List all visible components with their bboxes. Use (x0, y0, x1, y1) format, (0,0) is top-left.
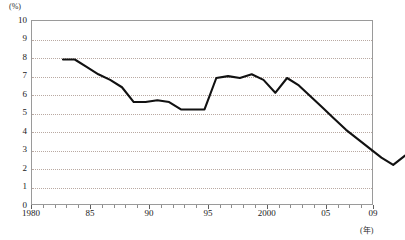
y-axis-tick-labels: 109876543210 (0, 20, 27, 205)
y-tick-label-7: 7 (3, 71, 27, 80)
y-tick-label-2: 2 (3, 164, 27, 173)
x-tick-label-85: 85 (85, 208, 94, 218)
y-tick-label-3: 3 (3, 145, 27, 154)
data-line-svg (63, 41, 405, 226)
y-tick-label-8: 8 (3, 53, 27, 62)
y-tick-label-10: 10 (3, 16, 27, 25)
x-axis-tick-labels: 198085909520000509 (0, 208, 389, 222)
data-line-series (63, 41, 405, 226)
x-tick-label-2000: 2000 (258, 208, 276, 218)
y-tick-label-6: 6 (3, 90, 27, 99)
series-polyline (63, 60, 405, 165)
x-tick-label-95: 95 (203, 208, 212, 218)
x-tick-label-90: 90 (144, 208, 153, 218)
y-tick-label-9: 9 (3, 34, 27, 43)
x-tick-label-09: 09 (369, 208, 378, 218)
x-tick-label-05: 05 (321, 208, 330, 218)
y-axis-unit-label: (%) (9, 2, 21, 11)
y-tick-label-5: 5 (3, 108, 27, 117)
plot-area (31, 20, 373, 205)
x-tick-label-1980: 1980 (22, 208, 40, 218)
y-tick-label-1: 1 (3, 182, 27, 191)
x-axis-unit-label: (年) (360, 226, 373, 235)
y-tick-label-4: 4 (3, 127, 27, 136)
